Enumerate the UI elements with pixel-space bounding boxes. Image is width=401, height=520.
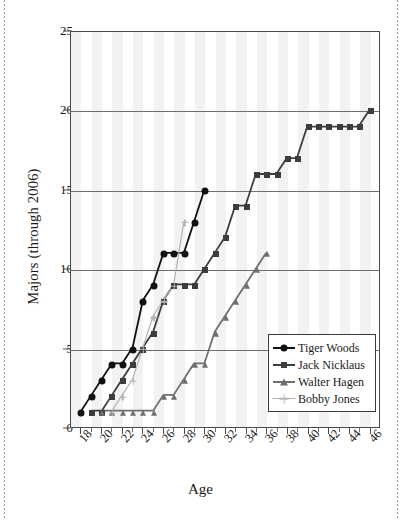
x-tick-minor-mark bbox=[318, 428, 319, 432]
legend-label: Jack Nicklaus bbox=[298, 359, 365, 371]
x-tick-minor-mark bbox=[173, 428, 174, 432]
data-point bbox=[140, 298, 147, 305]
data-point bbox=[233, 204, 239, 210]
x-tick-minor-mark bbox=[277, 428, 278, 432]
data-point bbox=[161, 298, 168, 305]
data-point bbox=[244, 204, 250, 210]
data-point bbox=[223, 315, 229, 321]
data-point bbox=[171, 394, 177, 400]
data-point bbox=[182, 378, 188, 384]
data-point bbox=[264, 172, 270, 178]
data-point bbox=[316, 124, 322, 130]
chart-legend: Tiger WoodsJack NicklausWalter HagenBobb… bbox=[268, 334, 376, 412]
data-point bbox=[213, 330, 219, 336]
x-tick-minor-mark bbox=[359, 428, 360, 432]
x-tick-minor-mark bbox=[111, 428, 112, 432]
x-tick-label: 26 bbox=[159, 427, 179, 446]
data-point bbox=[213, 251, 219, 257]
data-point bbox=[192, 219, 199, 226]
data-point bbox=[192, 362, 198, 368]
x-tick-label: 28 bbox=[180, 427, 200, 446]
data-point bbox=[120, 378, 126, 384]
data-point bbox=[109, 394, 115, 400]
y-tick-mark bbox=[63, 428, 70, 429]
data-point bbox=[223, 235, 229, 241]
y-axis: Majors (through 2006) bbox=[0, 0, 70, 520]
data-point bbox=[181, 251, 188, 258]
y-tick-mark bbox=[63, 269, 70, 270]
data-point bbox=[295, 156, 301, 162]
data-point bbox=[130, 362, 136, 368]
x-tick-minor-mark bbox=[153, 428, 154, 432]
x-tick-minor-mark bbox=[194, 428, 195, 432]
y-axis-title: Majors (through 2006) bbox=[25, 122, 42, 352]
data-point bbox=[264, 251, 270, 257]
page-edge-right bbox=[397, 0, 398, 520]
data-point bbox=[140, 410, 146, 416]
x-tick-minor-mark bbox=[91, 428, 92, 432]
majors-by-age-chart: Majors (through 2006) 0510152025 1820222… bbox=[0, 0, 401, 520]
square-icon bbox=[273, 358, 295, 372]
x-axis-title: Age bbox=[0, 481, 401, 498]
data-point bbox=[202, 362, 208, 368]
x-tick-minor-mark bbox=[297, 428, 298, 432]
data-point bbox=[109, 362, 116, 369]
data-point bbox=[150, 283, 157, 290]
triangle-icon bbox=[273, 375, 295, 389]
data-point bbox=[254, 267, 260, 273]
data-point bbox=[171, 283, 178, 290]
plus-icon bbox=[273, 392, 295, 406]
data-point bbox=[161, 251, 168, 258]
x-tick-minor-mark bbox=[215, 428, 216, 432]
data-point bbox=[347, 124, 353, 130]
data-point bbox=[368, 108, 374, 114]
data-point bbox=[151, 331, 157, 337]
data-point bbox=[119, 394, 126, 401]
legend-item-jack-nicklaus[interactable]: Jack Nicklaus bbox=[273, 356, 372, 373]
data-point bbox=[140, 346, 147, 353]
data-point bbox=[337, 124, 343, 130]
data-point bbox=[254, 172, 260, 178]
legend-item-bobby-jones[interactable]: Bobby Jones bbox=[273, 390, 372, 407]
data-point bbox=[202, 267, 208, 273]
data-point bbox=[171, 251, 178, 258]
data-point bbox=[181, 219, 188, 226]
x-tick-label: 40 bbox=[304, 427, 324, 446]
data-point bbox=[120, 410, 126, 416]
y-tick-mark bbox=[63, 31, 70, 32]
data-point bbox=[99, 410, 105, 416]
data-point bbox=[130, 346, 137, 353]
data-point bbox=[151, 410, 157, 416]
data-point bbox=[150, 314, 157, 321]
data-point bbox=[89, 410, 95, 416]
x-tick-label: 44 bbox=[345, 427, 365, 446]
data-point bbox=[306, 124, 312, 130]
x-tick-label: 46 bbox=[366, 427, 386, 446]
x-tick-minor-mark bbox=[339, 428, 340, 432]
data-point bbox=[161, 394, 167, 400]
data-point bbox=[357, 124, 363, 130]
legend-label: Tiger Woods bbox=[298, 342, 359, 354]
x-tick-label: 38 bbox=[283, 427, 303, 446]
legend-item-walter-hagen[interactable]: Walter Hagen bbox=[273, 373, 372, 390]
legend-item-tiger-woods[interactable]: Tiger Woods bbox=[273, 339, 372, 356]
data-point bbox=[130, 410, 136, 416]
data-point bbox=[244, 283, 250, 289]
data-point bbox=[88, 394, 95, 401]
x-tick-label: 42 bbox=[324, 427, 344, 446]
legend-label: Walter Hagen bbox=[298, 376, 364, 388]
data-point bbox=[326, 124, 332, 130]
y-tick-mark bbox=[63, 110, 70, 111]
data-point bbox=[130, 378, 137, 385]
data-point bbox=[182, 283, 188, 289]
x-tick-minor-mark bbox=[256, 428, 257, 432]
y-tick-mark bbox=[63, 189, 70, 190]
data-point bbox=[233, 299, 239, 305]
data-point bbox=[99, 378, 106, 385]
data-point bbox=[119, 362, 126, 369]
x-tick-label: 24 bbox=[138, 427, 158, 446]
data-point bbox=[192, 283, 198, 289]
x-tick-label: 30 bbox=[200, 427, 220, 446]
x-tick-minor-mark bbox=[132, 428, 133, 432]
circle-icon bbox=[273, 341, 295, 355]
